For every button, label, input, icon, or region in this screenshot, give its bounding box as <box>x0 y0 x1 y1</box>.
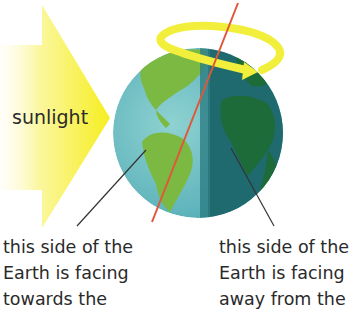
caption-day-line-2: Earth is facing <box>3 260 133 286</box>
caption-night-line-1: this side of the <box>219 234 349 260</box>
caption-day-line-3: towards the <box>3 286 133 309</box>
caption-day-line-1: this side of the <box>3 234 133 260</box>
caption-night-side: this side of the Earth is facing away fr… <box>219 234 349 309</box>
caption-night-line-3: away from the <box>219 286 349 309</box>
earth-rotation-diagram: sunlight this side of the Earth is facin… <box>0 0 362 309</box>
sunlight-label: sunlight <box>12 104 88 130</box>
caption-day-side: this side of the Earth is facing towards… <box>3 234 133 309</box>
caption-night-line-2: Earth is facing <box>219 260 349 286</box>
